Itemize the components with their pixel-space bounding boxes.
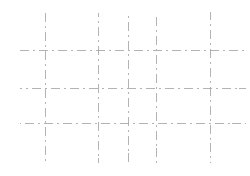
- grid-vertical-line: [210, 12, 211, 163]
- grid-horizontal-line: [20, 123, 246, 124]
- grid-horizontal-line: [20, 50, 245, 51]
- dashed-grid: [0, 0, 250, 176]
- grid-vertical-line: [156, 13, 157, 163]
- scanned-page: [0, 0, 250, 176]
- grid-vertical-line: [128, 13, 129, 163]
- grid-vertical-line: [45, 13, 46, 163]
- grid-horizontal-line: [20, 88, 246, 89]
- grid-vertical-line: [98, 13, 99, 163]
